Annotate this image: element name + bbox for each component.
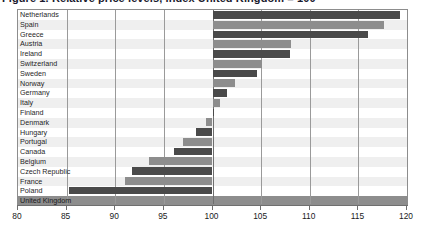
chart-bar: [132, 167, 213, 175]
chart-bar: [125, 177, 213, 185]
axis-tick: [163, 205, 164, 210]
chart-bar: [213, 70, 258, 78]
chart-bar: [69, 187, 213, 195]
figure-title-clipped: Figure 1. Relative price levels, index U…: [0, 0, 425, 9]
chart-bar: [213, 89, 228, 97]
chart-bar: [213, 11, 401, 19]
axis-tick: [309, 205, 310, 210]
gridline: [213, 10, 214, 204]
figure-container: Figure 1. Relative price levels, index U…: [0, 0, 425, 232]
chart-bar: [206, 118, 213, 126]
gridline: [310, 10, 311, 204]
chart-bar: [213, 109, 215, 117]
chart-bar: [213, 60, 263, 68]
gridline: [115, 10, 116, 204]
axis-tick-label: 85: [61, 211, 70, 221]
figure-title-text: Figure 1. Relative price levels, index U…: [2, 0, 316, 4]
axis-tick-label: 105: [253, 211, 267, 221]
x-axis-line: [17, 205, 408, 206]
chart-bar: [174, 148, 213, 156]
axis-tick: [357, 205, 358, 210]
chart-bar: [196, 128, 213, 136]
chart-bar: [183, 138, 212, 146]
gridline: [261, 10, 262, 204]
axis-tick: [260, 205, 261, 210]
chart-bar: [213, 40, 292, 48]
chart-plot-area: [17, 9, 408, 205]
chart-bar: [213, 99, 221, 107]
x-axis: 80859095100105110115120: [17, 205, 408, 227]
axis-tick-label: 80: [12, 211, 21, 221]
axis-tick: [17, 205, 18, 210]
axis-tick: [114, 205, 115, 210]
axis-tick-label: 110: [302, 211, 315, 221]
gridline: [358, 10, 359, 204]
chart-bar: [213, 31, 369, 39]
chart-bar: [149, 157, 212, 165]
chart-bar: [213, 79, 235, 87]
axis-tick-label: 115: [351, 211, 364, 221]
axis-tick: [212, 205, 213, 210]
axis-tick: [406, 205, 407, 210]
axis-tick: [66, 205, 67, 210]
gridline: [164, 10, 165, 204]
chart-bar: [213, 21, 384, 29]
gridline: [67, 10, 68, 204]
axis-tick-label: 90: [110, 211, 119, 221]
chart-bar: [213, 50, 291, 58]
axis-tick-label: 95: [158, 211, 167, 221]
axis-tick-label: 120: [399, 211, 413, 221]
axis-tick-label: 100: [205, 211, 219, 221]
